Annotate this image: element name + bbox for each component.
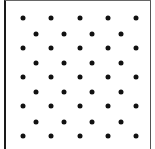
grid-dot bbox=[78, 16, 83, 21]
grid-dot bbox=[21, 46, 26, 51]
grid-dot bbox=[21, 134, 26, 139]
grid-dot bbox=[49, 75, 54, 80]
grid-dot bbox=[49, 46, 54, 51]
grid-dot bbox=[106, 46, 111, 51]
grid-dot bbox=[106, 75, 111, 80]
grid-dot bbox=[78, 104, 83, 109]
grid-dot bbox=[90, 61, 95, 66]
grid-dot bbox=[106, 134, 111, 139]
grid-dot bbox=[21, 75, 26, 80]
grid-dot bbox=[90, 90, 95, 95]
grid-dot bbox=[34, 90, 39, 95]
grid-dot bbox=[134, 46, 139, 51]
grid-dot bbox=[119, 32, 124, 37]
grid-dot bbox=[134, 134, 139, 139]
grid-dot bbox=[49, 16, 54, 21]
grid-dot bbox=[34, 120, 39, 125]
grid-dot bbox=[62, 90, 67, 95]
grid-dot bbox=[119, 61, 124, 66]
grid-dot bbox=[106, 104, 111, 109]
grid-dot bbox=[134, 16, 139, 21]
grid-dot bbox=[106, 16, 111, 21]
grid-dot bbox=[21, 104, 26, 109]
grid-dot bbox=[62, 32, 67, 37]
grid-dot bbox=[78, 134, 83, 139]
grid-dot bbox=[34, 32, 39, 37]
grid-dot bbox=[34, 61, 39, 66]
grid-dot bbox=[78, 46, 83, 51]
grid-dot bbox=[62, 120, 67, 125]
grid-dot bbox=[62, 61, 67, 66]
grid-dot bbox=[90, 32, 95, 37]
grid-dot bbox=[134, 75, 139, 80]
grid-dot bbox=[119, 120, 124, 125]
grid-dot bbox=[119, 90, 124, 95]
grid-dot bbox=[49, 134, 54, 139]
grid-dot bbox=[134, 104, 139, 109]
grid-dot bbox=[78, 75, 83, 80]
grid-dot bbox=[90, 120, 95, 125]
grid-dot bbox=[21, 16, 26, 21]
grid-dot bbox=[49, 104, 54, 109]
